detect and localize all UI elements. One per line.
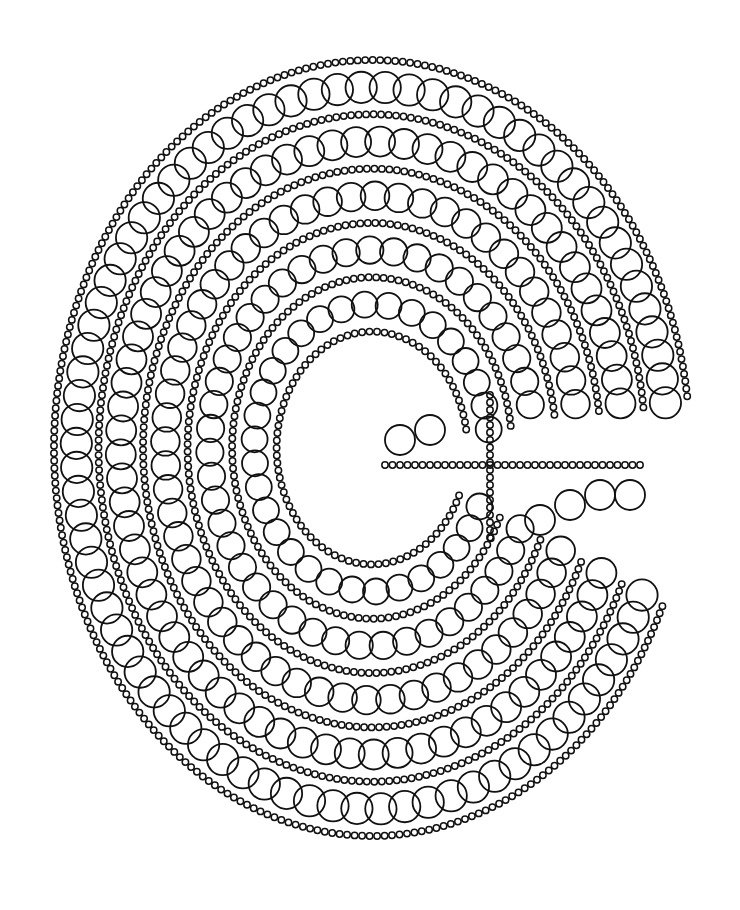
labyrinth-artwork	[0, 0, 740, 910]
